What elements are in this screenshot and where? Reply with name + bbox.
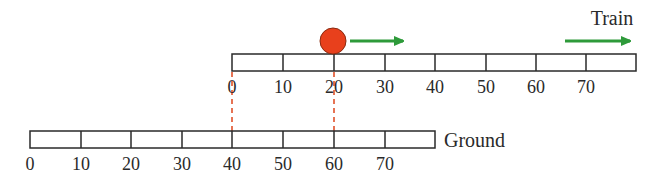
train-tick-label: 10 (274, 77, 292, 97)
train-tick-labels: 0 10 20 30 40 50 60 70 (228, 77, 596, 97)
train-tick-label: 60 (527, 77, 545, 97)
train-tick-label: 50 (477, 77, 495, 97)
ground-tick-label: 40 (223, 154, 241, 174)
ball (320, 28, 346, 54)
ground-tick-label: 60 (325, 154, 343, 174)
train-label: Train (591, 7, 634, 29)
train-tick-label: 70 (577, 77, 595, 97)
ground-tick-labels: 0 10 20 30 40 50 60 70 (26, 154, 395, 174)
train-tick-label: 20 (325, 77, 343, 97)
ground-tick-label: 30 (173, 154, 191, 174)
train-ruler (232, 54, 636, 71)
ground-ruler (30, 131, 435, 148)
train-tick-label: 40 (426, 77, 444, 97)
reference-frame-diagram: 0 10 20 30 40 50 60 70 Train 0 10 20 30 … (0, 0, 664, 184)
ground-tick-label: 20 (122, 154, 140, 174)
ground-label: Ground (444, 129, 505, 151)
train-tick-label: 30 (376, 77, 394, 97)
ground-tick-label: 0 (26, 154, 35, 174)
train-tick-label: 0 (228, 77, 237, 97)
ground-tick-label: 50 (274, 154, 292, 174)
ground-tick-label: 10 (72, 154, 90, 174)
ground-tick-label: 70 (376, 154, 394, 174)
